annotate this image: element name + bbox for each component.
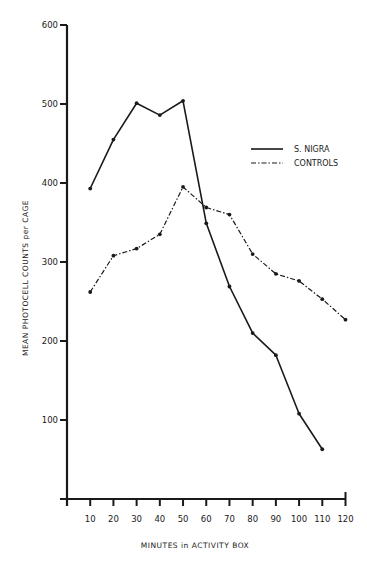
data-point — [181, 99, 185, 103]
y-tick-label: 600 — [42, 20, 58, 30]
data-point — [135, 101, 139, 105]
x-tick-label: 30 — [131, 514, 142, 524]
x-tick-label: 80 — [247, 514, 258, 524]
x-axis: 102030405060708090100110120 — [60, 492, 354, 524]
x-tick-label: 60 — [201, 514, 212, 524]
x-tick-label: 110 — [314, 514, 330, 524]
y-tick-label: 500 — [42, 99, 58, 109]
data-point — [297, 279, 301, 283]
y-tick-label: 400 — [42, 178, 58, 188]
data-point — [228, 213, 232, 217]
legend-label-controls: CONTROLS — [294, 159, 338, 168]
data-point — [320, 447, 324, 451]
x-axis-title: MINUTES in ACTIVITY BOX — [141, 541, 249, 550]
y-tick-label: 300 — [42, 257, 58, 267]
data-point — [204, 221, 208, 225]
y-axis: 100200300400500600 — [42, 20, 67, 506]
data-point — [251, 252, 255, 256]
data-point — [228, 285, 232, 289]
legend: S. NIGRA CONTROLS — [251, 145, 338, 168]
legend-label-s-nigra: S. NIGRA — [294, 145, 330, 154]
y-tick-label: 200 — [42, 336, 58, 346]
data-point — [158, 113, 162, 117]
x-tick-label: 120 — [337, 514, 353, 524]
data-point — [344, 318, 348, 322]
data-point — [204, 206, 208, 210]
x-tick-label: 20 — [108, 514, 119, 524]
data-point — [274, 353, 278, 357]
data-point — [112, 254, 116, 258]
y-axis-title: MEAN PHOTOCELL COUNTS per CAGE — [21, 200, 30, 356]
data-point — [112, 138, 116, 142]
data-point — [251, 331, 255, 335]
series-line-s-nigra — [90, 101, 322, 449]
y-tick-label: 100 — [42, 415, 58, 425]
x-tick-label: 70 — [224, 514, 235, 524]
x-tick-label: 10 — [85, 514, 96, 524]
line-chart: 100200300400500600 102030405060708090100… — [0, 0, 367, 563]
x-tick-label: 100 — [291, 514, 307, 524]
data-point — [88, 187, 92, 191]
data-point — [320, 297, 324, 301]
data-point — [135, 247, 139, 251]
data-point — [158, 232, 162, 236]
data-point — [88, 290, 92, 294]
data-point — [181, 185, 185, 189]
data-point — [297, 412, 301, 416]
data-point — [274, 272, 278, 276]
x-tick-label: 50 — [178, 514, 189, 524]
x-tick-label: 40 — [154, 514, 165, 524]
x-tick-label: 90 — [270, 514, 281, 524]
